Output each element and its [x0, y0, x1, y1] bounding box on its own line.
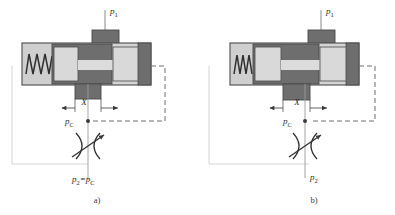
right-land-chamber [113, 47, 140, 81]
inlet-port-block-b [308, 30, 335, 44]
right-land-chamber-b [320, 47, 347, 81]
subfigure-caption-b: b) [310, 195, 317, 205]
subfigure-caption-a: a) [94, 195, 101, 205]
left-land-chamber [54, 47, 78, 81]
control-pressure-node [86, 119, 90, 123]
right-body-block [138, 43, 151, 85]
gap-dimension-X: X [80, 97, 87, 107]
control-pressure-node-b [303, 119, 307, 123]
hydraulic-valve-figure: p1 pC X [0, 0, 395, 215]
right-body-block-b [346, 43, 359, 85]
background [0, 0, 395, 215]
inlet-port-block [92, 30, 119, 44]
figure-canvas: p1 pC X [0, 0, 395, 215]
left-land-chamber-b [255, 47, 281, 81]
gap-dimension-X-b: X [293, 97, 300, 107]
